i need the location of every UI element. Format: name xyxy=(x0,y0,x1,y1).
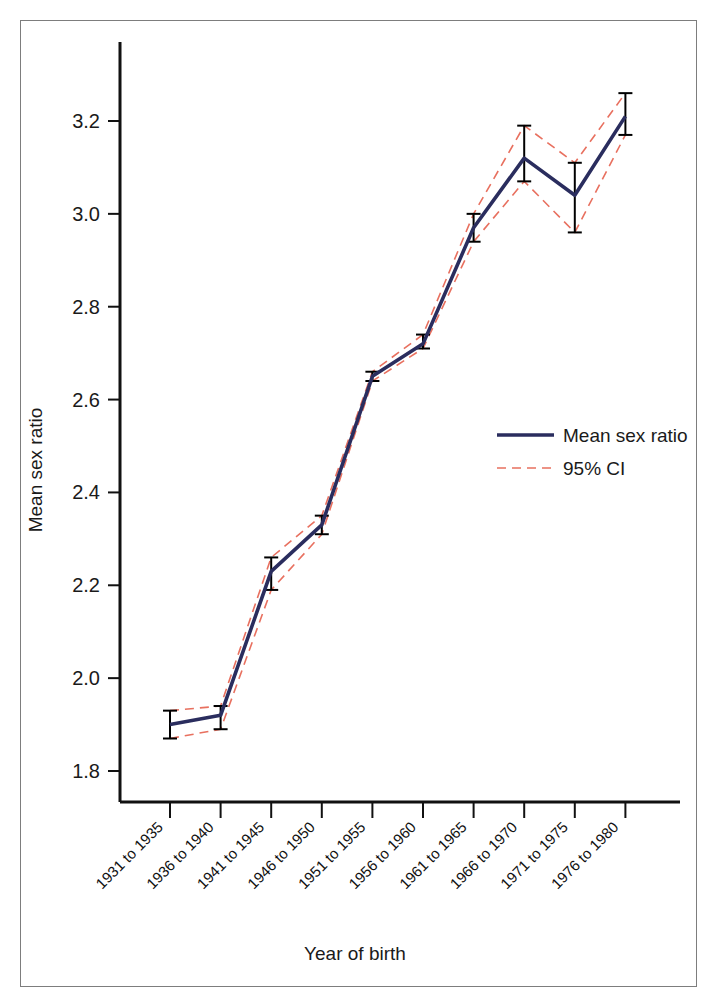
x-tick-labels: 1931 to 19351936 to 19401941 to 19451946… xyxy=(92,818,621,892)
y-tick-label: 2.6 xyxy=(72,389,100,411)
y-tick-label: 2.2 xyxy=(72,574,100,596)
chart-canvas: 1.82.02.22.42.62.83.03.2 Mean sex ratio … xyxy=(0,0,712,1006)
mean-series-line xyxy=(170,116,625,724)
ci-lower-series xyxy=(170,135,625,739)
y-tick-label: 2.4 xyxy=(72,481,100,503)
y-axis-group: 1.82.02.22.42.62.83.03.2 Mean sex ratio xyxy=(25,42,120,802)
legend-item-label: 95% CI xyxy=(563,458,625,479)
figure-root: 1.82.02.22.42.62.83.03.2 Mean sex ratio … xyxy=(0,0,712,1006)
x-axis-group: 1931 to 19351936 to 19401941 to 19451946… xyxy=(92,802,680,964)
ci-upper-series xyxy=(170,93,625,711)
errorbar-group xyxy=(163,93,632,738)
y-tick-label: 1.8 xyxy=(72,760,100,782)
ci-upper-line xyxy=(170,93,625,711)
y-tick-labels: 1.82.02.22.42.62.83.03.2 xyxy=(72,110,100,782)
y-tick-marks xyxy=(108,121,120,771)
x-axis-title: Year of birth xyxy=(304,943,406,964)
mean-line xyxy=(170,116,625,724)
x-tick-marks xyxy=(170,802,625,818)
y-tick-label: 3.2 xyxy=(72,110,100,132)
ci-lower-line xyxy=(170,135,625,739)
y-tick-label: 3.0 xyxy=(72,203,100,225)
y-axis-title: Mean sex ratio xyxy=(25,408,46,533)
legend-item-label: Mean sex ratio xyxy=(563,425,688,446)
y-tick-label: 2.0 xyxy=(72,667,100,689)
chart-legend: Mean sex ratio95% CI xyxy=(497,425,688,479)
y-tick-label: 2.8 xyxy=(72,296,100,318)
